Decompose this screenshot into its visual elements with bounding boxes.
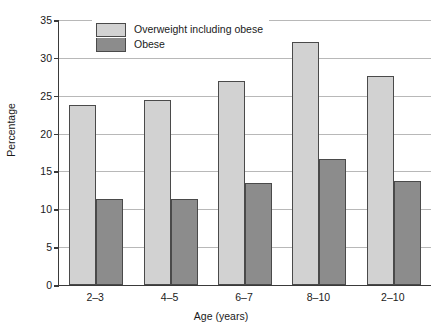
bar xyxy=(319,159,346,285)
legend-swatch-icon xyxy=(96,23,126,37)
bar xyxy=(292,42,319,285)
bar xyxy=(144,100,171,286)
legend-label: Overweight including obese xyxy=(134,24,263,35)
y-axis-tick-label: 30 xyxy=(26,53,52,64)
y-axis-tick-label: 5 xyxy=(26,242,52,253)
y-axis-tick xyxy=(54,134,59,136)
y-axis-tick-label: 25 xyxy=(26,90,52,101)
y-axis-tick xyxy=(54,247,59,249)
x-axis-tick-label: 4–5 xyxy=(161,291,179,303)
bar xyxy=(96,199,123,285)
y-axis-tick xyxy=(54,171,59,173)
bar xyxy=(171,199,198,285)
bar xyxy=(367,76,394,285)
x-axis-tick-label: 2–10 xyxy=(381,291,404,303)
x-axis-tick-label: 8–10 xyxy=(307,291,330,303)
x-axis-tick-label: 2–3 xyxy=(86,291,104,303)
y-axis-tick xyxy=(54,96,59,98)
legend-swatch-icon xyxy=(96,38,126,52)
y-axis-tick-label: 35 xyxy=(26,15,52,26)
legend-item: Obese xyxy=(96,37,263,52)
y-axis-tick-label: 10 xyxy=(26,204,52,215)
bar xyxy=(394,181,421,285)
legend-label: Obese xyxy=(134,39,165,50)
bar xyxy=(218,81,245,285)
bar xyxy=(69,105,96,285)
y-axis-tick-label: 15 xyxy=(26,166,52,177)
y-axis-tick xyxy=(54,209,59,211)
y-axis-tick xyxy=(54,20,59,22)
x-axis-tick-label: 6–7 xyxy=(235,291,253,303)
y-axis-title: Percentage xyxy=(5,103,17,157)
y-axis-tick-label: 0 xyxy=(26,280,52,291)
gridline xyxy=(59,58,431,59)
y-axis-tick xyxy=(54,58,59,60)
plot-area xyxy=(58,20,431,286)
y-axis-tick-labels: 05101520253035 xyxy=(22,20,52,285)
chart-legend: Overweight including obeseObese xyxy=(92,19,269,55)
x-axis-title: Age (years) xyxy=(0,310,442,322)
chart-screenshot: Percentage 05101520253035 2–34–56–78–102… xyxy=(0,0,442,332)
y-axis-tick-label: 20 xyxy=(26,128,52,139)
bar xyxy=(245,183,272,285)
y-axis-tick xyxy=(54,285,59,287)
legend-item: Overweight including obese xyxy=(96,22,263,37)
